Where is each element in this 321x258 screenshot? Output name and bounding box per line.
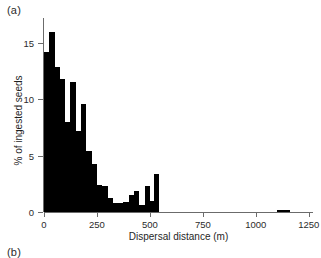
x-axis-tick-label: 1250	[298, 219, 319, 230]
y-axis-tick-label: 10	[23, 94, 34, 105]
y-axis-tick	[38, 156, 43, 157]
y-axis-tick	[38, 212, 43, 213]
x-axis-tick-label: 1000	[245, 219, 266, 230]
panel-b-label: (b)	[7, 246, 21, 258]
x-axis-tick	[203, 213, 204, 217]
x-axis-tick	[44, 213, 45, 217]
histogram-bar	[277, 210, 290, 212]
x-axis-tick	[97, 213, 98, 217]
y-axis-tick	[38, 99, 43, 100]
x-axis-tick-label: 500	[142, 219, 158, 230]
panel-a-label: (a)	[7, 4, 21, 16]
histogram-bars	[44, 18, 313, 212]
y-axis-tick-label: 15	[23, 37, 34, 48]
x-axis-line	[44, 212, 313, 213]
x-axis-tick-label: 750	[195, 219, 211, 230]
y-axis-tick	[38, 43, 43, 44]
x-axis-tick	[256, 213, 257, 217]
histogram-bar	[154, 174, 159, 212]
plot-area	[44, 18, 313, 212]
x-axis-tick-label: 0	[41, 219, 46, 230]
x-axis-tick	[309, 213, 310, 217]
y-axis-title: % of ingested seeds	[13, 31, 24, 211]
y-axis-tick-label: 5	[29, 150, 34, 161]
x-axis-tick-label: 250	[89, 219, 105, 230]
x-axis-tick	[150, 213, 151, 217]
y-axis-tick-label: 0	[29, 207, 34, 218]
x-axis-title: Dispersal distance (m)	[44, 231, 313, 242]
